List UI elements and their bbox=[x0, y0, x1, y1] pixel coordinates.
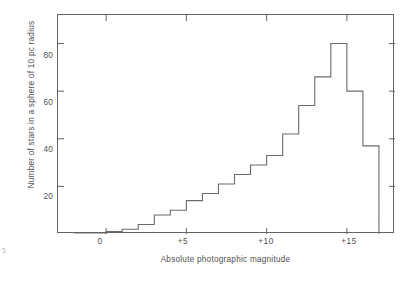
histogram-step-line bbox=[74, 44, 379, 234]
x-axis-tick-labels: 0 +5 +10 +15 bbox=[0, 237, 412, 251]
x-tick-label: +15 bbox=[329, 237, 369, 246]
x-axis-ticks-top bbox=[106, 15, 347, 21]
x-tick-label: 0 bbox=[80, 237, 120, 246]
y-tick-label: 40 bbox=[31, 145, 53, 154]
figure-container: 5 Number of stars in a sphere of 10 pc r… bbox=[0, 0, 412, 281]
x-tick-label: +10 bbox=[246, 237, 286, 246]
y-tick-label: 80 bbox=[31, 51, 53, 60]
histogram-plot bbox=[58, 15, 395, 234]
y-axis-ticks bbox=[58, 44, 64, 187]
y-tick-label: 60 bbox=[31, 98, 53, 107]
plot-frame bbox=[57, 14, 394, 233]
x-tick-label: +5 bbox=[163, 237, 203, 246]
x-axis-label: Absolute photographic magnitude bbox=[57, 255, 394, 264]
y-tick-label: 20 bbox=[31, 192, 53, 201]
y-axis-ticks-right bbox=[389, 44, 395, 187]
x-axis-ticks bbox=[106, 228, 347, 234]
